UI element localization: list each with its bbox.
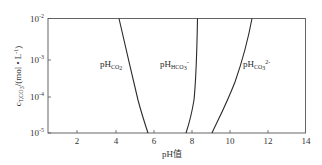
y-tick-label: 10-3: [30, 54, 44, 65]
x-axis-label: pH值: [162, 148, 182, 159]
x-tick-label: 6: [152, 136, 157, 146]
x-tick-labels: 2 4 6 8 10 12 14: [75, 136, 311, 146]
y-tick-label: 10-4: [30, 91, 44, 102]
x-tick-label: 2: [75, 136, 80, 146]
region-label-co2: pHCO2: [100, 59, 122, 71]
boundary-curves: [119, 19, 252, 134]
region-label-co3: pHCO32-: [243, 59, 270, 71]
y-axis-label: cT,CO3/(mol • L-1): [13, 46, 25, 107]
x-tick-label: 10: [226, 136, 236, 146]
x-tick-label: 12: [264, 136, 273, 146]
ph-chart: 10-2 10-3 10-4 10-5 2 4 6 8 10 12 14 pH值…: [0, 0, 322, 165]
region-label-hco3: pHHCO3-: [160, 59, 189, 71]
y-tick-labels: 10-2 10-3 10-4 10-5: [30, 13, 44, 138]
x-tick-label: 4: [114, 136, 119, 146]
plot-frame: [48, 19, 306, 134]
curve-co3: [212, 19, 252, 134]
curve-co2: [119, 19, 148, 134]
region-labels: pHCO2 pHHCO3- pHCO32-: [100, 59, 270, 71]
y-tick-label: 10-2: [30, 13, 44, 24]
x-tick-label: 8: [190, 136, 195, 146]
curve-hco3: [186, 19, 198, 134]
x-tick-label: 14: [302, 136, 312, 146]
y-tick-label: 10-5: [30, 127, 44, 138]
